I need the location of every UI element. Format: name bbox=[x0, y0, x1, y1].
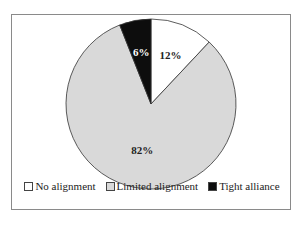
swatch-icon bbox=[106, 182, 115, 191]
legend-item-no-alignment: No alignment bbox=[24, 180, 95, 192]
legend-item-limited-alignment: Limited alignment bbox=[106, 180, 199, 192]
pie-chart: 12%82%6% bbox=[0, 0, 304, 226]
slice-label: 12% bbox=[159, 49, 181, 61]
legend: No alignment Limited alignment Tight all… bbox=[0, 180, 304, 192]
legend-item-tight-alliance: Tight alliance bbox=[208, 180, 279, 192]
swatch-icon bbox=[208, 182, 217, 191]
slice-label: 6% bbox=[133, 46, 150, 58]
swatch-icon bbox=[24, 182, 33, 191]
slice-label: 82% bbox=[131, 144, 153, 156]
